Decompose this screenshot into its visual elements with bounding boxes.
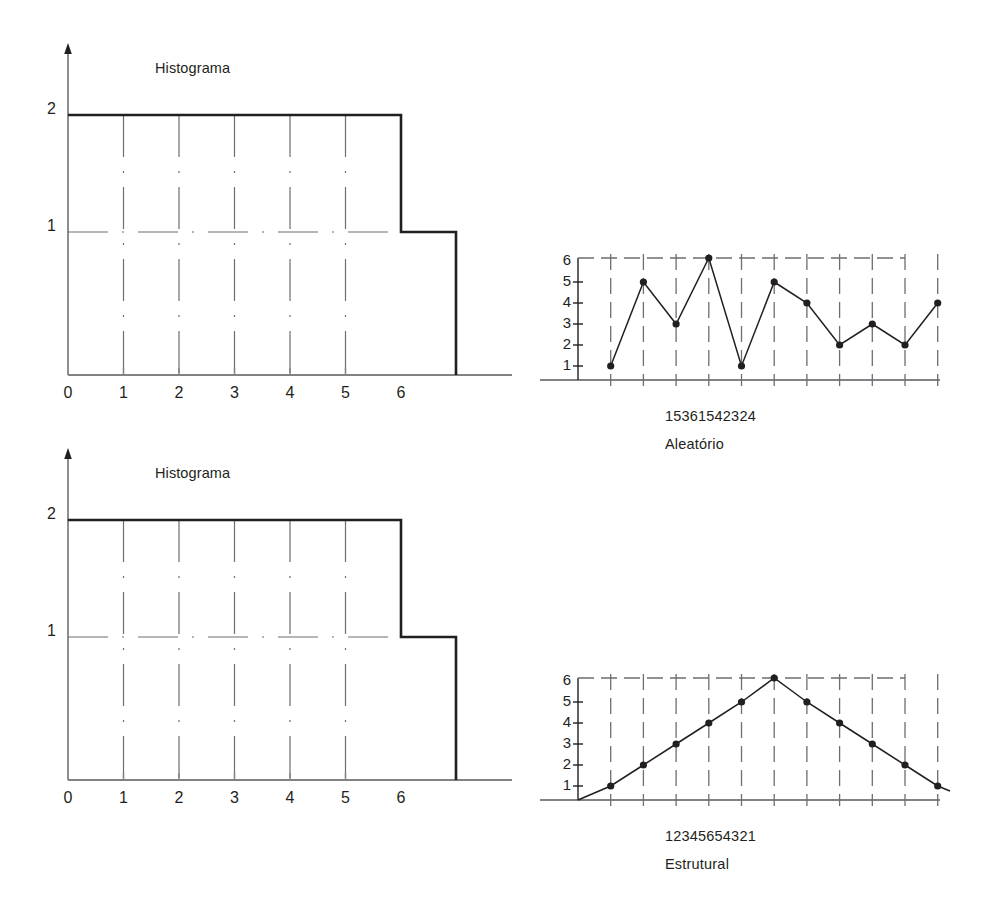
sequence-panel-aleatorio: 6 5 4 3 2 1: [540, 240, 985, 470]
sequence-caption-digits: 12345654321: [665, 828, 756, 844]
histogram-panel-aleatorio: Histograma 2 1: [0, 20, 520, 440]
y-axis-arrow-icon: [64, 448, 72, 459]
histogram-vertical-gridlines: [124, 520, 346, 780]
histogram-x-ticks: [124, 773, 346, 780]
histogram-plot: [0, 450, 520, 870]
sequence-caption-digits: 15361542324: [665, 408, 756, 424]
histogram-x-tick-3: 3: [223, 384, 247, 402]
sequence-caption-label: Aleatório: [665, 436, 724, 452]
histogram-x-tick-2: 2: [167, 789, 191, 807]
histogram-x-tick-0: 0: [56, 384, 80, 402]
histogram-x-tick-0: 0: [56, 789, 80, 807]
figure-root: Histograma 2 1: [0, 0, 985, 905]
y-axis-arrow-icon: [64, 43, 72, 54]
sequence-panel-estrutural: 6 5 4 3 2 1: [540, 660, 985, 890]
sequence-plot-estrutural: [540, 660, 985, 890]
sequence-plot-aleatorio: [540, 240, 985, 470]
histogram-x-tick-6: 6: [389, 789, 413, 807]
histogram-x-tick-5: 5: [334, 789, 358, 807]
histogram-x-ticks: [124, 368, 346, 375]
histogram-x-tick-1: 1: [112, 789, 136, 807]
histogram-x-tick-3: 3: [223, 789, 247, 807]
histogram-vertical-gridlines: [124, 115, 346, 375]
histogram-x-tick-4: 4: [278, 789, 302, 807]
histogram-x-tick-6: 6: [389, 384, 413, 402]
histogram-step-outline: [68, 115, 456, 375]
histogram-x-tick-1: 1: [112, 384, 136, 402]
sequence-vertical-gridlines: [611, 254, 938, 386]
sequence-vertical-gridlines: [611, 674, 938, 806]
histogram-x-tick-5: 5: [334, 384, 358, 402]
histogram-panel-estrutural: Histograma 2 1 0: [0, 450, 520, 870]
histogram-x-tick-4: 4: [278, 384, 302, 402]
histogram-step-outline: [68, 520, 456, 780]
histogram-plot: [0, 20, 520, 440]
sequence-line-estrutural: [578, 678, 950, 800]
histogram-x-tick-2: 2: [167, 384, 191, 402]
sequence-caption-label: Estrutural: [665, 856, 729, 872]
